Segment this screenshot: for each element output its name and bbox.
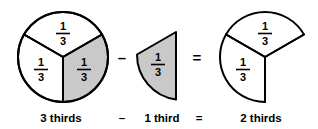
caption-minuend: 3 thirds — [40, 112, 82, 124]
fraction-numerator: 1 — [60, 20, 66, 32]
fraction-denominator: 3 — [38, 71, 44, 83]
caption-subtrahend: 1 third — [144, 112, 179, 124]
fraction-denominator: 3 — [60, 35, 66, 47]
fraction-numerator: 1 — [81, 56, 87, 68]
shape-whole-circle-three-thirds: 1 3 1 3 1 3 — [18, 12, 108, 102]
caption-result: 2 thirds — [240, 112, 282, 124]
fraction-denominator: 3 — [240, 71, 246, 83]
fraction-diagram-canvas: 1 3 1 3 1 3 – 1 — [0, 0, 318, 129]
fraction-numerator: 1 — [262, 20, 268, 32]
minus-operator: – — [118, 49, 126, 66]
fraction-denominator: 3 — [155, 66, 161, 78]
fraction-numerator: 1 — [155, 51, 161, 63]
fraction-numerator: 1 — [38, 56, 44, 68]
fraction-denominator: 3 — [262, 35, 268, 47]
caption-minus: – — [119, 112, 126, 124]
fraction-denominator: 3 — [81, 71, 87, 83]
equals-operator: = — [193, 49, 202, 66]
fraction-subtraction-figure: 1 3 1 3 1 3 – 1 — [0, 0, 318, 129]
fraction-numerator: 1 — [240, 56, 246, 68]
caption-equals: = — [196, 112, 203, 124]
shape-circle-two-thirds: 1 3 1 3 — [220, 12, 304, 102]
shape-single-third-wedge: 1 3 — [137, 32, 176, 100]
